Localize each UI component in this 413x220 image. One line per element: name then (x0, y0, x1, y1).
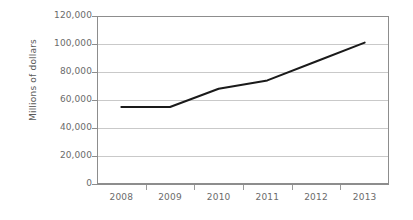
x-tick-label: 2008 (96, 192, 146, 202)
y-tick-mark (92, 72, 97, 73)
x-tick-mark (194, 185, 195, 190)
y-tick-mark (92, 128, 97, 129)
series-line (121, 43, 364, 107)
series-line-group (97, 16, 389, 184)
x-tick-label: 2011 (242, 192, 292, 202)
x-tick-mark (243, 185, 244, 190)
y-tick-mark (92, 44, 97, 45)
x-tick-label: 2010 (194, 192, 244, 202)
y-tick-label: 40,000 (44, 123, 92, 132)
line-chart: Millions of dollars 120,000100,00080,000… (0, 0, 413, 220)
y-tick-label: 100,000 (44, 39, 92, 48)
x-tick-mark (292, 185, 293, 190)
x-tick-mark (340, 185, 341, 190)
x-tick-label: 2009 (145, 192, 195, 202)
y-tick-label: 80,000 (44, 67, 92, 76)
x-tick-label: 2013 (340, 192, 390, 202)
y-tick-label: 60,000 (44, 95, 92, 104)
y-tick-label: 0 (44, 179, 92, 188)
y-tick-label: 120,000 (44, 11, 92, 20)
y-tick-mark (92, 16, 97, 17)
y-tick-mark (92, 100, 97, 101)
y-axis-title: Millions of dollars (26, 0, 40, 170)
y-tick-mark (92, 184, 97, 185)
y-tick-mark (92, 156, 97, 157)
x-tick-label: 2012 (291, 192, 341, 202)
y-axis-tick-labels: 120,000100,00080,00060,00040,00020,0000 (40, 0, 92, 220)
y-tick-label: 20,000 (44, 151, 92, 160)
x-tick-mark (146, 185, 147, 190)
